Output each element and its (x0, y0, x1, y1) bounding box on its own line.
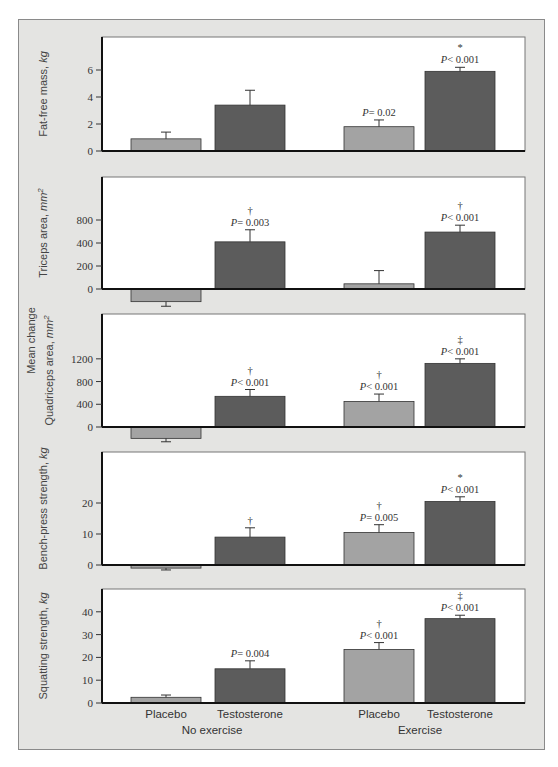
p-value-label: P< 0.001 (359, 381, 399, 392)
bar (131, 427, 201, 438)
y-tick-label: 0 (88, 421, 94, 433)
y-tick-label: 40 (82, 606, 94, 618)
y-tick-label: 10 (82, 528, 94, 540)
bar (131, 139, 201, 151)
shared-y-axis-title: Mean change (25, 307, 37, 374)
y-tick-label: 0 (88, 145, 94, 157)
y-tick-label: 10 (82, 674, 94, 686)
y-tick-label: 200 (77, 260, 94, 272)
p-value-label: P< 0.001 (359, 630, 399, 641)
figure-panel: 0246Fat-free mass, kgP= 0.02P< 0.001*020… (18, 19, 545, 750)
significance-marker: † (247, 205, 252, 216)
bar (425, 363, 495, 427)
bar (425, 232, 495, 289)
significance-marker: † (247, 365, 252, 376)
significance-marker: † (247, 515, 252, 526)
bar (215, 669, 285, 703)
bar (344, 649, 414, 703)
y-tick-label: 0 (88, 283, 94, 295)
y-axis-title: Quadriceps area, mm2 (42, 315, 55, 426)
significance-marker: ‡ (457, 334, 462, 345)
y-axis-title: Triceps area, mm2 (36, 188, 49, 278)
y-axis-title: Bench-press strength, kg (37, 446, 49, 569)
bar (215, 242, 285, 289)
p-value-label: P= 0.005 (359, 512, 399, 523)
p-value-label: P< 0.001 (440, 602, 480, 613)
y-tick-label: 800 (77, 376, 94, 388)
y-axis-title: Squatting strength, kg (37, 592, 49, 700)
bar (425, 501, 495, 565)
p-value-label: P= 0.02 (361, 107, 395, 118)
bar (425, 619, 495, 703)
bar (215, 537, 285, 565)
y-tick-label: 400 (77, 237, 94, 249)
p-value-label: P= 0.004 (230, 648, 270, 659)
significance-marker: ‡ (457, 590, 462, 601)
y-tick-label: 6 (88, 64, 94, 76)
significance-marker: * (457, 472, 462, 483)
y-tick-label: 20 (82, 497, 94, 509)
y-tick-label: 30 (82, 629, 94, 641)
p-value-label: P< 0.001 (440, 54, 480, 65)
bar (131, 289, 201, 302)
y-tick-label: 0 (88, 559, 94, 571)
x-category-label: Placebo (145, 708, 187, 720)
bar-chart-stack: 0246Fat-free mass, kgP= 0.02P< 0.001*020… (19, 20, 546, 751)
y-tick-label: 400 (77, 398, 94, 410)
bar (215, 396, 285, 427)
significance-marker: † (376, 618, 381, 629)
significance-marker: † (457, 200, 462, 211)
x-category-label: Testosterone (427, 708, 493, 720)
bar (344, 532, 414, 565)
p-value-label: P< 0.001 (230, 377, 270, 388)
significance-marker: † (376, 500, 381, 511)
significance-marker: * (457, 42, 462, 53)
y-tick-label: 1200 (71, 353, 94, 365)
y-tick-label: 4 (88, 91, 94, 103)
y-tick-label: 2 (88, 118, 94, 130)
x-group-label: Exercise (398, 724, 442, 736)
significance-marker: † (376, 369, 381, 380)
x-category-label: Testosterone (217, 708, 283, 720)
p-value-label: P< 0.001 (440, 346, 480, 357)
bar (344, 401, 414, 427)
p-value-label: P< 0.001 (440, 212, 480, 223)
y-tick-label: 20 (82, 651, 94, 663)
p-value-label: P< 0.001 (440, 484, 480, 495)
p-value-label: P= 0.003 (230, 217, 270, 228)
bar (215, 105, 285, 151)
y-tick-label: 0 (88, 697, 94, 709)
y-axis-title: Fat-free mass, kg (37, 50, 49, 136)
bar (425, 71, 495, 151)
x-group-label: No exercise (182, 724, 243, 736)
x-category-label: Placebo (358, 708, 400, 720)
y-tick-label: 800 (77, 214, 94, 226)
bar (344, 127, 414, 151)
